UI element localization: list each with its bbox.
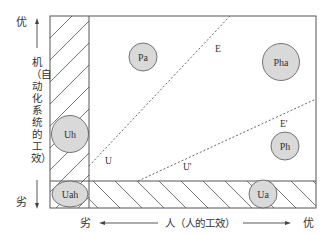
node-ua: Ua <box>249 180 277 208</box>
diagram-canvas: Pa Pha Uh Ph Uah Ua E E' U U' 优 劣 劣 人（人的… <box>0 0 328 235</box>
node-pha: Pha <box>263 44 300 81</box>
svg-text:Ua: Ua <box>257 189 269 200</box>
y-top-label: 优 <box>16 16 27 29</box>
svg-text:Pha: Pha <box>274 57 290 68</box>
label-u-prime: U' <box>183 162 192 172</box>
x-axis-title: 人（人的工效） <box>165 217 235 229</box>
bottom-hatched-region <box>89 181 316 208</box>
svg-text:Ph: Ph <box>280 141 291 152</box>
label-u: U <box>105 156 112 166</box>
svg-text:Uah: Uah <box>62 189 79 200</box>
node-pa: Pa <box>129 43 157 71</box>
label-e: E <box>215 44 221 54</box>
x-right-label: 优 <box>303 217 314 230</box>
label-e-prime: E' <box>280 119 288 129</box>
node-uh: Uh <box>52 116 89 153</box>
node-uah: Uah <box>52 181 88 207</box>
arrowhead-left-icon <box>99 221 105 225</box>
y-axis-title: 机（自动化系统的工效） <box>31 56 43 164</box>
left-hatched-region <box>50 16 89 208</box>
arrowhead-right-icon <box>285 221 291 225</box>
arrowhead-up-icon <box>35 18 39 24</box>
arrowhead-down-icon <box>35 203 39 209</box>
x-left-label: 劣 <box>80 216 91 230</box>
line-e-u <box>89 16 230 166</box>
svg-text:Pa: Pa <box>138 52 149 63</box>
node-ph: Ph <box>271 132 299 160</box>
y-bottom-label: 劣 <box>16 195 27 209</box>
svg-text:Uh: Uh <box>64 129 76 140</box>
